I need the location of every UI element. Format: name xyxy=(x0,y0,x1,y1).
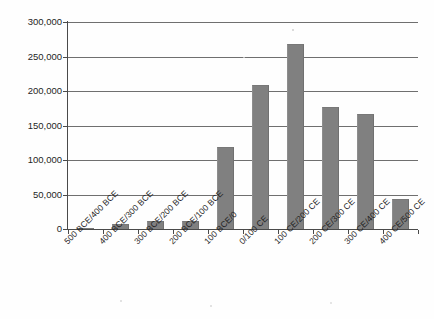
scan-speck xyxy=(120,300,122,302)
bar-series xyxy=(68,22,418,229)
x-tick-mark xyxy=(68,230,69,234)
x-tick-mark xyxy=(278,230,279,234)
x-tick-mark xyxy=(418,230,419,234)
y-tick-label: 100,000 xyxy=(0,154,62,165)
bar xyxy=(322,107,339,229)
x-tick-mark xyxy=(208,230,209,234)
bar xyxy=(217,147,234,229)
y-tick-label: 300,000 xyxy=(0,16,62,27)
bar xyxy=(287,44,304,229)
x-tick-mark xyxy=(383,230,384,234)
y-tick-label: 50,000 xyxy=(0,189,62,200)
bar-chart: 050,000100,000150,000200,000250,000300,0… xyxy=(0,0,434,319)
bar xyxy=(392,199,409,229)
x-tick-mark xyxy=(103,230,104,234)
x-tick-mark xyxy=(348,230,349,234)
scan-speck xyxy=(243,57,245,58)
scan-speck xyxy=(292,29,294,31)
y-tick-label: 200,000 xyxy=(0,85,62,96)
y-tick-label: 150,000 xyxy=(0,120,62,131)
y-tick-label: 0 xyxy=(0,223,62,234)
y-tick-label: 250,000 xyxy=(0,51,62,62)
x-tick-mark xyxy=(138,230,139,234)
x-tick-mark xyxy=(313,230,314,234)
x-tick-mark xyxy=(173,230,174,234)
bar xyxy=(182,221,199,229)
bar xyxy=(112,224,129,229)
bar xyxy=(147,221,164,229)
bar xyxy=(77,228,94,229)
bar xyxy=(252,85,269,229)
scan-speck xyxy=(210,305,212,307)
x-tick-mark xyxy=(243,230,244,234)
bar xyxy=(357,114,374,229)
scan-speck xyxy=(330,302,332,304)
